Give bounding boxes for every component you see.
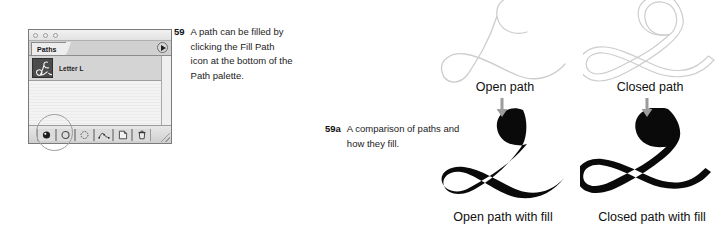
label-open-path-with-fill: Open path with fill — [432, 210, 574, 224]
label-open-path: Open path — [445, 80, 565, 94]
open-path-with-fill-artwork — [435, 108, 577, 212]
path-list-item-label: Letter L — [59, 65, 84, 72]
path-list-item-letter-l[interactable]: Letter L — [29, 56, 171, 81]
palette-tab-row: Paths — [29, 41, 171, 56]
thumbnail-script-l-glyph — [33, 59, 53, 78]
palette-scroll-column[interactable] — [161, 56, 171, 125]
caption-59a-number: 59a — [325, 122, 341, 137]
palette-menu-triangle-icon[interactable] — [157, 42, 168, 53]
closed-script-l-path-outline — [583, 0, 723, 88]
path-thumbnail-letter-l-icon — [32, 58, 53, 78]
tab-paths[interactable]: Paths — [31, 42, 67, 55]
open-script-l-filled-black — [435, 108, 577, 208]
caption-59-number: 59 — [174, 25, 185, 40]
make-work-path-button[interactable] — [94, 129, 113, 141]
make-work-path-from-selection-icon — [98, 130, 110, 140]
label-closed-path-with-fill: Closed path with fill — [578, 210, 726, 224]
new-path-button[interactable] — [113, 129, 132, 141]
window-close-dot[interactable] — [33, 33, 38, 38]
closed-path-with-fill-artwork — [580, 108, 722, 212]
closed-path-artwork — [583, 0, 723, 92]
window-zoom-dot[interactable] — [53, 33, 58, 38]
down-arrow-icon-open — [495, 98, 509, 118]
open-path-artwork — [437, 0, 577, 92]
new-path-page-icon — [118, 130, 128, 140]
closed-script-l-filled-black — [580, 108, 722, 208]
load-selection-button[interactable] — [75, 129, 94, 141]
caption-59: 59 A path can be filled by clicking the … — [174, 25, 294, 83]
fill-path-highlight-circle — [36, 114, 73, 151]
delete-path-button[interactable] — [132, 129, 151, 141]
open-script-l-path-outline — [437, 0, 577, 88]
window-minimize-dot[interactable] — [43, 33, 48, 38]
trash-can-icon — [137, 130, 147, 140]
caption-59-text: A path can be filled by clicking the Fil… — [191, 25, 294, 83]
label-closed-path: Closed path — [590, 80, 710, 94]
down-arrow-icon-closed — [640, 98, 654, 118]
palette-title-bar[interactable] — [29, 30, 171, 41]
resize-grip-icon[interactable] — [161, 133, 170, 142]
load-path-as-selection-icon — [79, 130, 90, 140]
